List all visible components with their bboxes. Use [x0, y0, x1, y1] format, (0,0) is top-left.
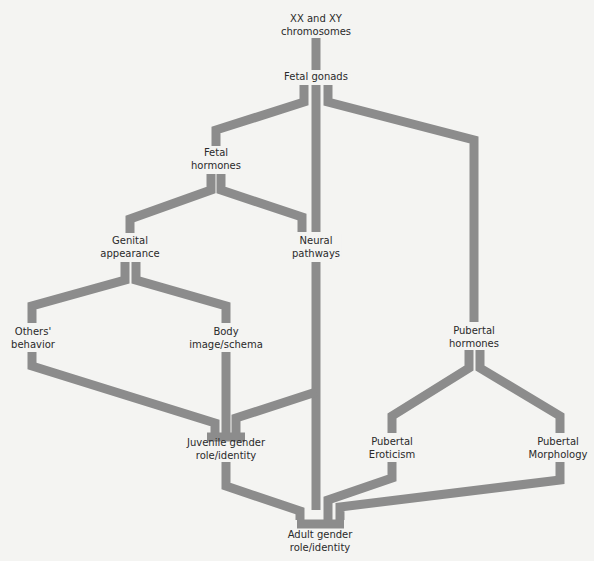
- edge-fetalhormones-genital: [130, 174, 211, 233]
- node-pubertal-hormones-line1: Pubertal: [449, 324, 499, 337]
- node-pubertal-hormones: Pubertal hormones: [449, 324, 499, 350]
- node-chromosomes-line1: XX and XY: [281, 12, 351, 25]
- edge-neural-juvenile: [236, 392, 316, 433]
- node-fetal-gonads: Fetal gonads: [282, 70, 350, 83]
- node-neural-pathways: Neural pathways: [290, 234, 342, 260]
- node-pubertal-eroticism-line1: Pubertal: [369, 435, 415, 448]
- edge-genital-body: [136, 262, 226, 323]
- edge-morphology-adult: [340, 462, 560, 520]
- node-juvenile-gender-line2: role/identity: [187, 449, 265, 462]
- node-chromosomes-line2: chromosomes: [281, 25, 351, 38]
- node-body-image: Body image/schema: [189, 325, 263, 351]
- edge-gonads-pubertalhormones: [328, 85, 474, 322]
- node-juvenile-gender: Juvenile gender role/identity: [187, 436, 265, 462]
- diagram-links: [0, 0, 594, 561]
- node-adult-gender: Adult gender role/identity: [288, 528, 353, 554]
- node-pubertal-eroticism-line2: Eroticism: [369, 448, 415, 461]
- node-fetal-gonads-line1: Fetal gonads: [284, 70, 348, 83]
- node-genital-appearance-line2: appearance: [100, 247, 159, 260]
- node-neural-pathways-line1: Neural: [292, 234, 340, 247]
- node-body-image-line2: image/schema: [189, 338, 263, 351]
- node-fetal-hormones: Fetal hormones: [191, 146, 241, 172]
- node-others-behavior: Others' behavior: [11, 325, 55, 351]
- edge-others-juvenile: [32, 352, 215, 433]
- edge-juvenile-adult: [226, 462, 300, 520]
- edge-genital-others: [32, 262, 125, 323]
- node-chromosomes: XX and XY chromosomes: [281, 12, 351, 38]
- node-adult-gender-line1: Adult gender: [288, 528, 353, 541]
- node-neural-pathways-line2: pathways: [292, 247, 340, 260]
- node-genital-appearance: Genital appearance: [100, 234, 159, 260]
- edge-pubhormones-eroticism: [392, 350, 469, 433]
- edge-gonads-fetalhormones: [216, 85, 304, 146]
- node-others-behavior-line2: behavior: [11, 338, 55, 351]
- edge-fetalhormones-neural: [221, 174, 302, 232]
- node-pubertal-morphology-line2: Morphology: [529, 448, 588, 461]
- edge-pubhormones-morphology: [480, 350, 560, 433]
- node-adult-gender-line2: role/identity: [288, 541, 353, 554]
- node-body-image-line1: Body: [189, 325, 263, 338]
- node-others-behavior-line1: Others': [11, 325, 55, 338]
- node-pubertal-morphology: Pubertal Morphology: [529, 435, 588, 461]
- node-genital-appearance-line1: Genital: [100, 234, 159, 247]
- node-juvenile-gender-line1: Juvenile gender: [187, 436, 265, 449]
- node-pubertal-hormones-line2: hormones: [449, 337, 499, 350]
- node-pubertal-morphology-line1: Pubertal: [529, 435, 588, 448]
- node-fetal-hormones-line2: hormones: [191, 159, 241, 172]
- node-pubertal-eroticism: Pubertal Eroticism: [369, 435, 415, 461]
- node-fetal-hormones-line1: Fetal: [191, 146, 241, 159]
